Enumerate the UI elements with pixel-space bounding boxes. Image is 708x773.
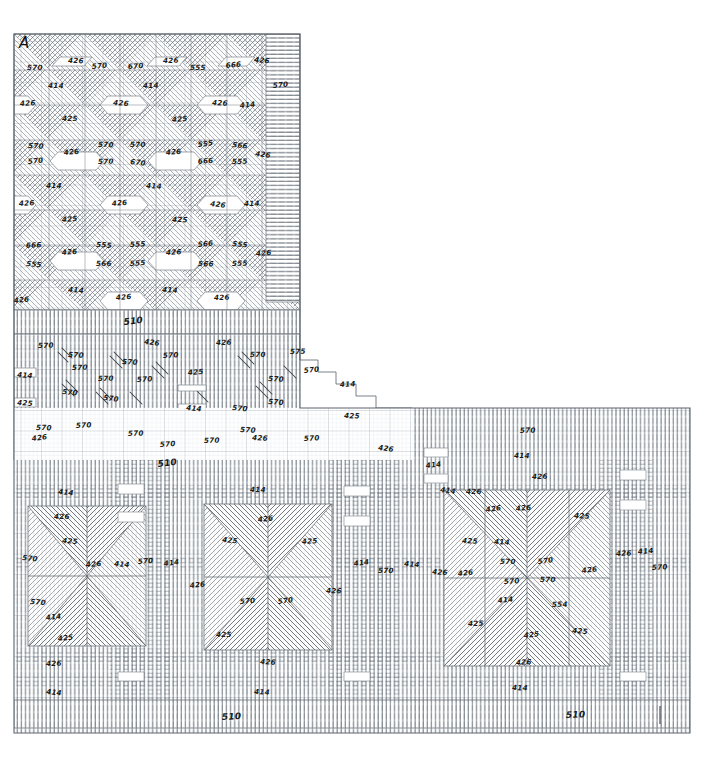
lower-left-medallion bbox=[28, 506, 146, 646]
lower-right-medallion bbox=[444, 490, 610, 666]
upper-left-block bbox=[14, 34, 300, 310]
draft-canvas: 5704265706704265556664264144144264264264… bbox=[0, 0, 708, 773]
lower-block bbox=[14, 408, 690, 733]
plate-letter-label: A bbox=[18, 34, 29, 52]
mid-divider-band bbox=[14, 310, 300, 334]
upper-right-border-band bbox=[266, 34, 300, 302]
lower-center-medallion bbox=[204, 504, 332, 650]
bottom-border-band bbox=[14, 700, 690, 728]
upper-chevron-field bbox=[14, 34, 300, 310]
drawing-sheet: 5704265706704265556664264144144264264264… bbox=[0, 0, 708, 773]
